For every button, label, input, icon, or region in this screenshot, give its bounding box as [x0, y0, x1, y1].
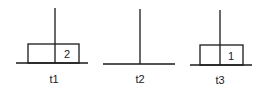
- tower-t1-label: t1: [49, 73, 58, 85]
- tower-t3-label: t3: [215, 74, 224, 86]
- tower-t2: t2: [103, 9, 175, 85]
- tower-t3: 1 t3: [190, 10, 252, 86]
- tower-t1-disk: [28, 44, 79, 63]
- tower-t1: 2 t1: [16, 8, 88, 85]
- tower-t1-disk-number: 2: [64, 48, 70, 60]
- tower-t3-disk-number: 1: [228, 50, 234, 62]
- tower-t2-label: t2: [135, 73, 144, 85]
- tower-diagram: 2 t1 t2 1 t3: [0, 0, 264, 89]
- tower-t3-disk: [200, 45, 243, 65]
